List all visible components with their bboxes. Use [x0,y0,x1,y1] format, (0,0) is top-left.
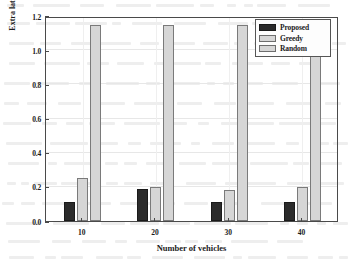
legend-swatch-icon [259,45,276,52]
y-tick-label: 0.2 [17,183,41,192]
bar-greedy-20 [150,187,161,221]
bar-chart-figure: Extra latency cost 0.00.20.40.60.81.01.2… [0,0,353,265]
legend-item-proposed[interactable]: Proposed [259,23,327,33]
y-tick-label: 1.2 [17,13,41,22]
x-tick-label: 40 [286,228,316,237]
y-tick-label: 0.6 [17,115,41,124]
legend-swatch-icon [259,35,276,42]
bar-proposed-30 [211,202,222,221]
legend-item-label: Proposed [280,23,309,32]
legend-item-label: Greedy [280,34,303,43]
bar-greedy-10 [77,178,88,221]
chart-legend[interactable]: ProposedGreedyRandom [255,19,331,57]
y-axis-title: Extra latency cost [8,0,17,60]
bar-random-30 [237,25,248,221]
bar-random-20 [163,25,174,221]
bar-proposed-10 [64,202,75,221]
x-tick-mark [154,218,155,222]
bar-proposed-40 [284,202,295,221]
bar-greedy-30 [224,190,235,221]
bar-random-10 [90,25,101,221]
x-axis-title: Number of vehicles [45,243,338,253]
bar-greedy-40 [297,187,308,221]
x-tick-label: 10 [67,228,97,237]
x-tick-label: 30 [213,228,243,237]
y-tick-label: 0.0 [17,218,41,227]
x-tick-mark [228,218,229,222]
legend-item-random[interactable]: Random [259,44,327,54]
x-tick-mark [81,218,82,222]
x-tick-label: 20 [140,228,170,237]
legend-swatch-icon [259,24,276,31]
x-tick-mark [301,218,302,222]
legend-item-label: Random [280,44,307,53]
y-tick-label: 0.4 [17,149,41,158]
y-tick-label: 1.0 [17,47,41,56]
bar-proposed-20 [137,189,148,221]
legend-item-greedy[interactable]: Greedy [259,33,327,43]
y-tick-label: 0.8 [17,81,41,90]
